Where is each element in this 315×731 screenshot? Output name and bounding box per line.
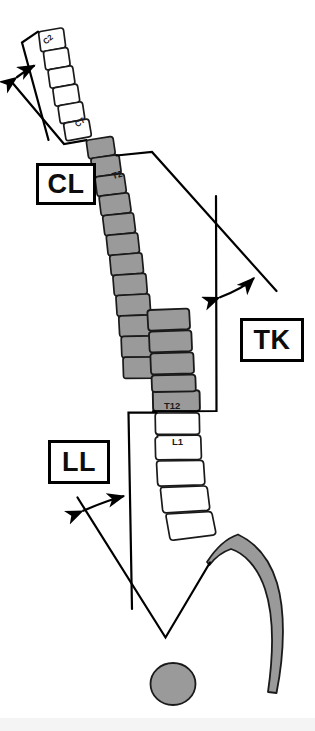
- measurement-label-ll-text: LL: [62, 447, 96, 478]
- vertebra-l2: [155, 435, 201, 460]
- vertebra-t8: [113, 273, 147, 295]
- vertebra-t6: [106, 233, 139, 256]
- sacrum-shape: [207, 535, 283, 694]
- thoracic-vertebrae-group: [86, 137, 158, 379]
- measurement-label-cl: CL: [36, 163, 96, 205]
- footer-band: [0, 718, 315, 731]
- vertebra-l1: [155, 413, 199, 435]
- measurement-label-cl-text: CL: [48, 169, 85, 200]
- ll-angle-arrow: [83, 496, 125, 511]
- measurement-label-tk: TK: [240, 318, 304, 362]
- vertebra-bridge-3: [150, 352, 194, 374]
- lumbar-vertebrae-group: [155, 413, 215, 540]
- vertebra-bridge-2: [149, 330, 192, 352]
- measurement-label-tk-text: TK: [254, 325, 291, 356]
- vertebra-c7: [64, 119, 92, 140]
- sacrum-group: [151, 535, 283, 706]
- vertebra-t9: [116, 294, 151, 316]
- vertebra-bridge-4: [152, 375, 196, 392]
- vertebra-l4: [161, 486, 210, 513]
- vertebra-bridge-1: [147, 309, 190, 331]
- vertebra-t12-labeled: [153, 390, 200, 411]
- measurement-label-ll: LL: [48, 440, 110, 484]
- ll-line-l1-endplate: [129, 413, 157, 609]
- spine-diagram-canvas: [0, 0, 315, 731]
- femoral-head: [151, 663, 196, 705]
- vertebra-l5: [166, 512, 216, 541]
- vertebra-t5: [103, 213, 136, 236]
- thoracolumbar-bridge-group: [147, 309, 195, 392]
- vertebra-t7: [110, 253, 144, 276]
- vertebra-l3: [157, 460, 205, 486]
- tk-angle-arrow: [220, 278, 255, 298]
- spine-diagram-figure: CL TK LL C2 C7 T2 T12 L1: [0, 0, 315, 731]
